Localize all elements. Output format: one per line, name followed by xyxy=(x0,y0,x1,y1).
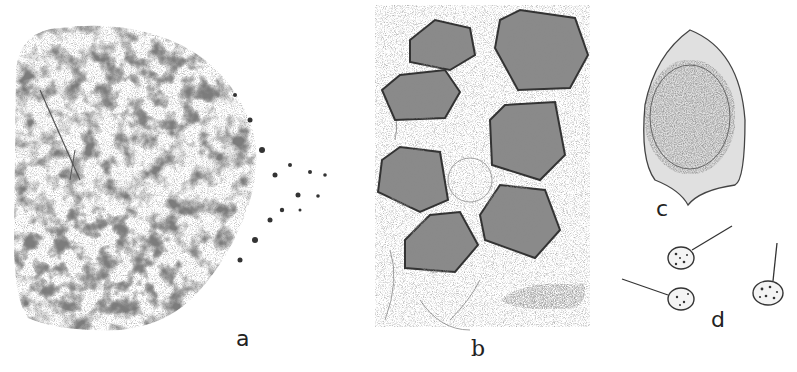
figure-illustration xyxy=(0,0,797,372)
panel-label-c: c xyxy=(656,198,668,220)
panel-b-image xyxy=(375,5,590,330)
panel-label-d: d xyxy=(711,309,725,331)
d-body-3 xyxy=(753,243,783,305)
panel-a-image xyxy=(14,26,327,331)
micrograph-figure: a b c d xyxy=(0,0,797,372)
panel-label-a: a xyxy=(236,328,249,350)
d-body-1 xyxy=(668,226,732,269)
panel-label-b: b xyxy=(471,338,485,360)
panel-d-image xyxy=(622,226,783,310)
panel-c-image xyxy=(644,30,745,205)
d-body-2 xyxy=(622,279,694,310)
